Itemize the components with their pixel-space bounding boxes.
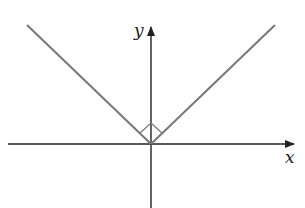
left-branch-line bbox=[27, 25, 151, 144]
right-branch-line bbox=[151, 25, 275, 144]
x-axis-label: x bbox=[285, 147, 295, 167]
y-axis-label: y bbox=[133, 20, 144, 40]
absolute-value-graph: y x bbox=[0, 0, 305, 208]
